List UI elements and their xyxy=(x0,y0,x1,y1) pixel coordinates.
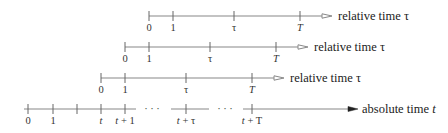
tick-label: τ xyxy=(208,53,212,64)
tick-label: 1 xyxy=(50,115,55,126)
relative-time-label: relative time τ xyxy=(290,71,361,85)
absolute-time-label: absolute time t xyxy=(362,102,436,116)
filled-arrow-icon xyxy=(348,107,358,112)
tick-label: 0 xyxy=(98,84,103,95)
ellipsis: · · · xyxy=(217,103,233,114)
timeline-diagram: 01τTrelative time τ01τTrelative time τ01… xyxy=(0,0,448,133)
tick-label: t + 1 xyxy=(115,115,134,126)
tick-label: 0 xyxy=(122,53,127,64)
tick-label: t + T xyxy=(242,115,263,126)
relative-time-label: relative time τ xyxy=(338,9,409,23)
tick-label: τ xyxy=(184,84,188,95)
tick-label: T xyxy=(273,53,280,64)
open-arrow-icon xyxy=(274,76,284,80)
tick-label: 1 xyxy=(170,22,175,33)
tick-label: T xyxy=(249,84,256,95)
tick-label: 1 xyxy=(146,53,151,64)
open-arrow-icon xyxy=(298,45,308,49)
relative-time-label: relative time τ xyxy=(314,40,385,54)
tick-label: t xyxy=(100,115,104,126)
tick-label: τ xyxy=(232,22,236,33)
tick-label: 0 xyxy=(146,22,151,33)
ellipsis: · · · xyxy=(144,103,160,114)
tick-label: 0 xyxy=(25,115,30,126)
tick-label: T xyxy=(297,22,304,33)
tick-label: 1 xyxy=(122,84,127,95)
open-arrow-icon xyxy=(322,14,332,18)
tick-label: t + τ xyxy=(177,115,195,126)
